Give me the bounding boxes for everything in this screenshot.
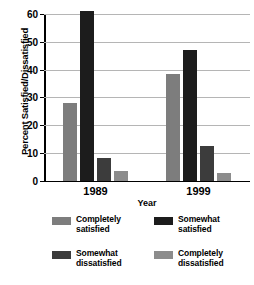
legend-item: Somewhatsatisfied (154, 214, 250, 235)
y-tick-label: 0 (32, 175, 38, 186)
x-axis-line (44, 181, 250, 183)
y-tick-label: 40 (27, 64, 38, 75)
gridline (44, 70, 250, 71)
bar (80, 11, 94, 180)
legend-item: Completelydissatisfied (154, 248, 250, 269)
y-tick-mark (40, 14, 44, 15)
plot-area: 0102030405060 (44, 14, 250, 182)
legend-swatch-icon (154, 251, 173, 259)
y-tick-mark (40, 97, 44, 98)
y-tick-mark (40, 153, 44, 154)
bar (114, 171, 128, 181)
bar-chart: Percent Satisfied/Dissatisfied 010203040… (0, 0, 254, 285)
plot-inner: 0102030405060 (44, 14, 250, 182)
x-tick-label: 1999 (186, 185, 210, 197)
legend-label: Completelysatisfied (76, 214, 121, 235)
bar (166, 74, 180, 181)
chart-legend: CompletelysatisfiedSomewhatsatisfiedSome… (52, 214, 250, 268)
y-tick-label: 60 (27, 9, 38, 20)
legend-swatch-icon (52, 251, 71, 259)
gridline (44, 14, 250, 15)
y-tick-label: 30 (27, 92, 38, 103)
legend-item: Somewhatdissatisfied (52, 248, 148, 269)
bar (63, 103, 77, 181)
x-axis-title: Year (44, 198, 250, 208)
bar (97, 158, 111, 180)
y-tick-mark (40, 42, 44, 43)
legend-swatch-icon (52, 217, 71, 225)
legend-label: Completelydissatisfied (178, 248, 224, 269)
bar (200, 146, 214, 181)
y-tick-label: 50 (27, 36, 38, 47)
x-tick-label: 1989 (83, 185, 107, 197)
bar (183, 50, 197, 180)
gridline (44, 42, 250, 43)
bar (217, 173, 231, 181)
legend-label: Somewhatdissatisfied (76, 248, 122, 269)
y-tick-mark (40, 181, 44, 182)
gridline (44, 97, 250, 98)
y-tick-mark (40, 70, 44, 71)
y-tick-label: 20 (27, 120, 38, 131)
y-tick-label: 10 (27, 147, 38, 158)
legend-swatch-icon (154, 217, 173, 225)
y-tick-mark (40, 125, 44, 126)
legend-label: Somewhatsatisfied (178, 214, 220, 235)
legend-item: Completelysatisfied (52, 214, 148, 235)
